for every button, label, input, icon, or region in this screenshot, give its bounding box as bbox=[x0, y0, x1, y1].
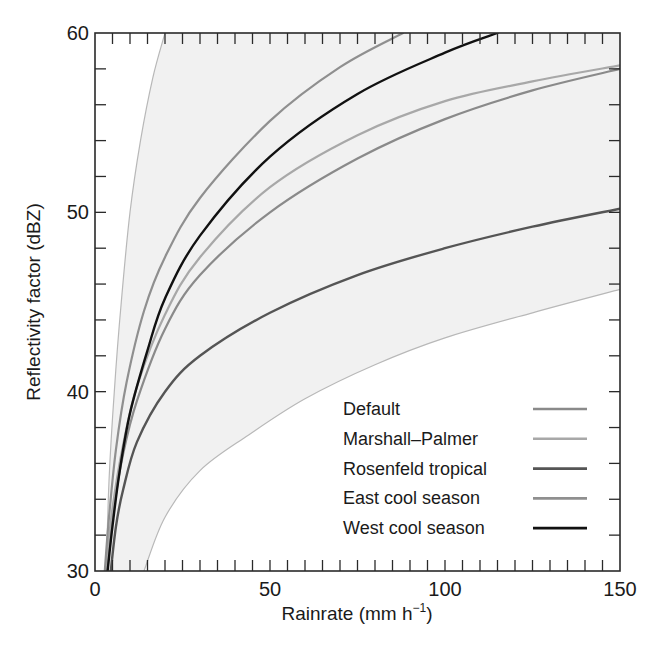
legend-item: Default bbox=[343, 399, 587, 419]
chart: 05010015030405060 Rainrate (mm h−1) Refl… bbox=[0, 0, 658, 656]
y-axis-label: Reflectivity factor (dBZ) bbox=[23, 203, 44, 400]
x-tick-label: 150 bbox=[603, 578, 636, 600]
legend-item: East cool season bbox=[343, 488, 587, 508]
legend-label: East cool season bbox=[343, 488, 480, 508]
legend-item: Marshall–Palmer bbox=[343, 429, 587, 449]
y-tick-label: 60 bbox=[67, 22, 89, 44]
legend-item: West cool season bbox=[343, 518, 587, 538]
legend: DefaultMarshall–PalmerRosenfeld tropical… bbox=[343, 399, 587, 538]
y-tick-label: 40 bbox=[67, 381, 89, 403]
legend-label: Marshall–Palmer bbox=[343, 429, 478, 449]
legend-label: Default bbox=[343, 399, 400, 419]
x-tick-label: 100 bbox=[428, 578, 461, 600]
x-tick-label: 50 bbox=[259, 578, 281, 600]
x-axis-label: Rainrate (mm h−1) bbox=[282, 601, 433, 624]
x-tick-label: 0 bbox=[89, 578, 100, 600]
y-tick-label: 50 bbox=[67, 201, 89, 223]
legend-label: Rosenfeld tropical bbox=[343, 459, 487, 479]
legend-label: West cool season bbox=[343, 518, 485, 538]
legend-item: Rosenfeld tropical bbox=[343, 459, 587, 479]
y-tick-label: 30 bbox=[67, 560, 89, 582]
